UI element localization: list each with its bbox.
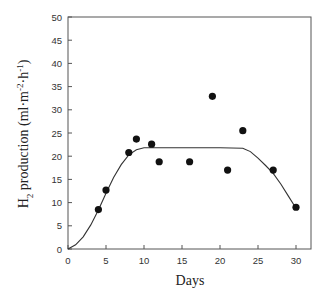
data-point [102, 186, 109, 193]
x-tick-label: 15 [177, 255, 188, 266]
data-points [95, 93, 300, 213]
fitted-curve [68, 148, 296, 249]
y-tick-label: 25 [51, 128, 62, 139]
plot-frame [68, 17, 311, 249]
y-tick-label: 40 [51, 58, 62, 69]
y-axis: 05101520253035404550 [51, 12, 72, 255]
y-tick-label: 45 [51, 35, 62, 46]
y-tick-label: 30 [51, 104, 62, 115]
y-tick-label: 50 [51, 12, 62, 23]
x-axis-title: Days [176, 273, 205, 288]
x-axis: 051015202530 [65, 245, 301, 266]
y-tick-label: 5 [57, 220, 62, 231]
data-point [270, 167, 277, 174]
data-point [125, 149, 132, 156]
data-point [186, 158, 193, 165]
x-tick-label: 10 [139, 255, 150, 266]
y-axis-title: H2 production (ml·m-2·h-1) [15, 59, 35, 208]
x-tick-label: 5 [103, 255, 108, 266]
y-tick-label: 20 [51, 151, 62, 162]
data-point [239, 127, 246, 134]
x-tick-label: 30 [291, 255, 302, 266]
y-tick-label: 0 [57, 244, 62, 255]
y-tick-label: 10 [51, 197, 62, 208]
x-tick-label: 0 [65, 255, 70, 266]
x-tick-label: 25 [253, 255, 264, 266]
data-point [156, 158, 163, 165]
data-point [224, 167, 231, 174]
data-point [95, 206, 102, 213]
chart: 05101520253035404550 051015202530 Days H… [0, 0, 323, 295]
data-point [209, 93, 216, 100]
data-point [292, 204, 299, 211]
y-tick-label: 15 [51, 174, 62, 185]
x-tick-label: 20 [215, 255, 226, 266]
data-point [148, 141, 155, 148]
y-tick-label: 35 [51, 81, 62, 92]
data-point [133, 135, 140, 142]
